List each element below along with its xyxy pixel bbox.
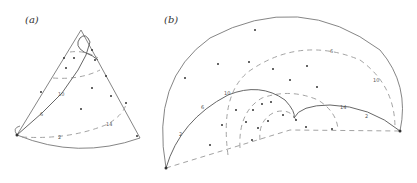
marker-6: 6 bbox=[40, 111, 43, 117]
marker-b-10b: 10 bbox=[373, 77, 379, 83]
panel-b-label: (b) bbox=[164, 14, 178, 25]
spiral-trace-b bbox=[166, 90, 400, 168]
dashed-arc-inner bbox=[260, 111, 296, 140]
panel-a-label: (a) bbox=[25, 14, 39, 25]
spiral-trace bbox=[17, 36, 98, 135]
diagram-canvas: 6 10 2 14 bbox=[0, 0, 417, 183]
sector-radii bbox=[166, 130, 400, 168]
marker-b-2b: 2 bbox=[365, 113, 368, 119]
figure: (a) (b) bbox=[0, 0, 417, 183]
dashed-arc-mid bbox=[240, 93, 338, 148]
marker-b-6b: 6 bbox=[330, 48, 333, 54]
panel-a-cone: 6 10 2 14 bbox=[15, 30, 140, 148]
panel-b-sector: 2 6 10 6 10 14 2 bbox=[163, 17, 403, 170]
marker-b-6: 6 bbox=[201, 104, 204, 110]
dots-b bbox=[165, 29, 402, 170]
dashed-circle-mid bbox=[53, 70, 100, 78]
cone-base-arc bbox=[17, 135, 140, 148]
marker-2: 2 bbox=[58, 134, 61, 140]
sector-outer-arc bbox=[163, 17, 403, 168]
marker-b-2: 2 bbox=[179, 131, 182, 137]
marker-14: 14 bbox=[106, 121, 112, 127]
marker-10: 10 bbox=[58, 91, 64, 97]
dots-a bbox=[16, 49, 139, 137]
marker-b-14: 14 bbox=[340, 104, 346, 110]
marker-b-10: 10 bbox=[224, 90, 230, 96]
cone-left-edge bbox=[17, 30, 81, 135]
